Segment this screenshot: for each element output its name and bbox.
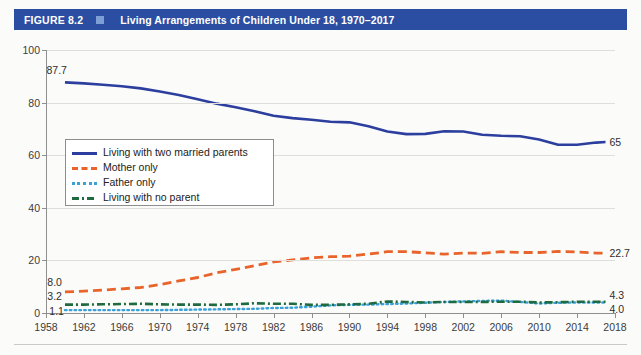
x-axis-tick-mark [425,313,426,318]
square-icon [96,16,104,24]
x-axis-tick-mark [539,313,540,318]
x-axis-tick-mark [312,313,313,318]
solid-line-swatch [72,152,97,155]
legend-item-2[interactable]: Father only [66,174,273,189]
y-axis-tick-label: 60 [28,149,40,161]
legend-item-label: Living with no parent [103,191,199,203]
legend-item-0[interactable]: Living with two married parents [66,144,273,159]
x-axis-tick-mark [501,313,502,318]
gridline [46,103,615,104]
figure-container: FIGURE 8.2 Living Arrangements of Childr… [0,0,641,355]
series-line-1 [65,251,606,292]
footer-divider [14,344,627,345]
figure-number-label: FIGURE 8.2 [24,14,83,26]
series-end-value-2: 4.0 [610,303,625,315]
series-end-value-0: 65 [610,136,622,148]
x-axis-tick-mark [463,313,464,318]
series-start-value-1: 8.0 [47,276,62,288]
x-axis-tick-mark [349,313,350,318]
x-axis-tick-mark [387,313,388,318]
y-axis-tick-mark [42,208,47,209]
gridline [46,260,615,261]
x-axis-tick-mark [198,313,199,318]
y-axis-tick-label: 80 [28,97,40,109]
y-axis-tick-mark [42,103,47,104]
x-axis-tick-mark [46,313,47,318]
x-axis-tick-label: 1982 [262,321,285,333]
x-axis-tick-label: 1990 [338,321,361,333]
y-axis-tick-mark [42,50,47,51]
dashdot-line-swatch [72,197,97,200]
x-axis-tick-label: 2006 [490,321,513,333]
x-axis-tick-mark [274,313,275,318]
y-axis-tick-label: 100 [22,44,40,56]
x-axis-tick-label: 2014 [565,321,588,333]
y-axis-tick-labels: 020406080100 [8,50,40,313]
x-axis-tick-mark [577,313,578,318]
y-axis-tick-mark [42,155,47,156]
legend-item-label: Mother only [103,161,158,173]
series-start-value-2: 1.1 [49,305,64,317]
series-end-value-3: 4.3 [610,289,625,301]
figure-title-label: Living Arrangements of Children Under 18… [120,14,394,26]
x-axis-tick-mark [236,313,237,318]
y-axis-tick-label: 0 [34,307,40,319]
x-axis-tick-label: 2010 [527,321,550,333]
x-axis-tick-label: 1978 [224,321,247,333]
x-axis-tick-label: 1962 [72,321,95,333]
x-axis-line [46,313,616,314]
gridline [46,208,615,209]
y-axis-tick-mark [42,260,47,261]
x-axis-tick-label: 1986 [300,321,323,333]
y-axis-tick-label: 40 [28,202,40,214]
x-axis-tick-label: 1966 [110,321,133,333]
legend-item-label: Father only [103,176,156,188]
x-axis-tick-mark [84,313,85,318]
dotted-line-swatch [72,182,97,185]
series-end-value-1: 22.7 [610,247,630,259]
x-axis-tick-label: 2002 [452,321,475,333]
legend-item-1[interactable]: Mother only [66,159,273,174]
figure-header-bar: FIGURE 8.2 Living Arrangements of Childr… [14,9,627,30]
x-axis-tick-label: 1974 [186,321,209,333]
series-line-0 [65,82,606,144]
x-axis-tick-mark [160,313,161,318]
legend-item-label: Living with two married parents [103,146,248,158]
gridline [46,50,615,51]
x-axis-tick-mark [122,313,123,318]
legend-item-3[interactable]: Living with no parent [66,189,273,204]
x-axis-tick-label: 2018 [603,321,626,333]
series-start-value-0: 87.7 [47,64,67,76]
dashed-line-swatch [72,167,97,170]
x-axis-tick-label: 1994 [376,321,399,333]
series-start-value-3: 3.2 [47,290,62,302]
x-axis-tick-label: 1998 [414,321,437,333]
x-axis-tick-label: 1958 [34,321,57,333]
chart-legend: Living with two married parentsMother on… [65,139,274,206]
y-axis-tick-label: 20 [28,254,40,266]
x-axis-tick-label: 1970 [148,321,171,333]
